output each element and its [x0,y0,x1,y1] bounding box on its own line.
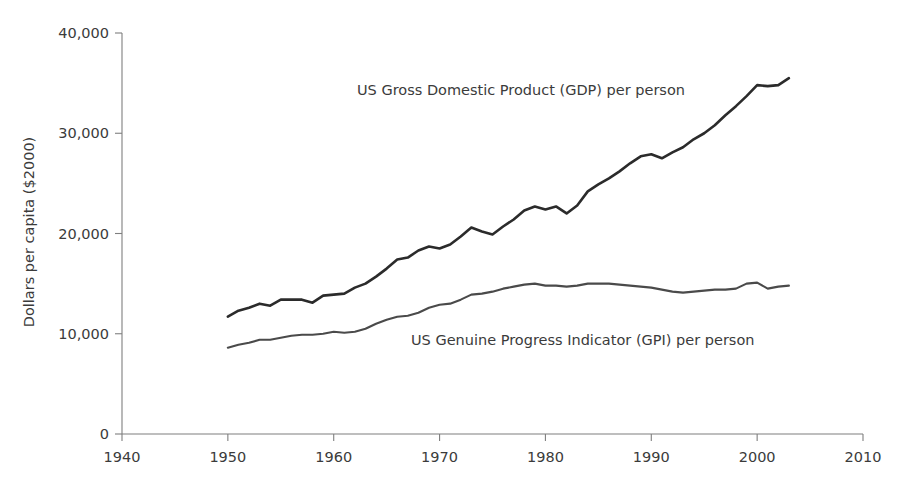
x-tick-label: 1990 [633,449,670,465]
gdp-gpi-line-chart: 010,00020,00030,00040,000 19401950196019… [0,0,906,497]
y-axis-title: Dollars per capita ($2000) [21,137,37,328]
series-annotation-gdp: US Gross Domestic Product (GDP) per pers… [357,82,685,98]
series-annotation-gpi: US Genuine Progress Indicator (GPI) per … [411,332,754,348]
y-tick-label: 10,000 [58,326,109,342]
x-tick-label: 1940 [104,449,141,465]
plot-area: 010,00020,00030,00040,000 19401950196019… [21,25,881,465]
chart-container: 010,00020,00030,00040,000 19401950196019… [0,0,906,497]
y-tick-label: 30,000 [58,125,109,141]
x-tick-label: 1950 [209,449,246,465]
x-tick-label: 2000 [739,449,776,465]
x-tick-label: 2010 [845,449,882,465]
y-tick-label: 20,000 [58,226,109,242]
x-tick-label: 1980 [527,449,564,465]
y-tick-label: 0 [100,426,109,442]
x-tick-label: 1960 [315,449,352,465]
x-tick-label: 1970 [421,449,458,465]
y-tick-group: 010,00020,00030,00040,000 [58,25,122,442]
y-axis: 010,00020,00030,00040,000 [58,25,122,442]
x-tick-group: 19401950196019701980199020002010 [104,434,882,465]
series-line-gdp [228,78,789,317]
x-axis: 19401950196019701980199020002010 [104,434,882,465]
y-tick-label: 40,000 [58,25,109,41]
